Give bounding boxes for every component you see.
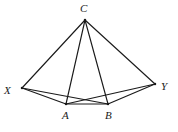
figure-canvas (0, 0, 178, 132)
vertex-point-c (84, 19, 87, 22)
geometry-figure: CXYAB (0, 0, 178, 132)
edge-y-b (108, 84, 155, 104)
edge-c-x (22, 20, 85, 88)
vertex-point-b (107, 103, 110, 106)
vertex-label-b: B (105, 110, 112, 121)
vertex-label-c: C (80, 3, 87, 14)
vertex-label-y: Y (161, 81, 167, 92)
edge-c-y (85, 20, 155, 84)
vertex-point-a (65, 103, 68, 106)
edge-layer (22, 20, 155, 104)
edge-c-b (85, 20, 108, 104)
vertex-label-x: X (4, 85, 11, 96)
edge-x-b (22, 88, 108, 104)
edge-y-a (66, 84, 155, 104)
vertex-point-x (21, 87, 24, 90)
edge-c-a (66, 20, 85, 104)
vertex-label-a: A (62, 110, 69, 121)
edge-x-a (22, 88, 66, 104)
vertex-point-y (154, 83, 157, 86)
